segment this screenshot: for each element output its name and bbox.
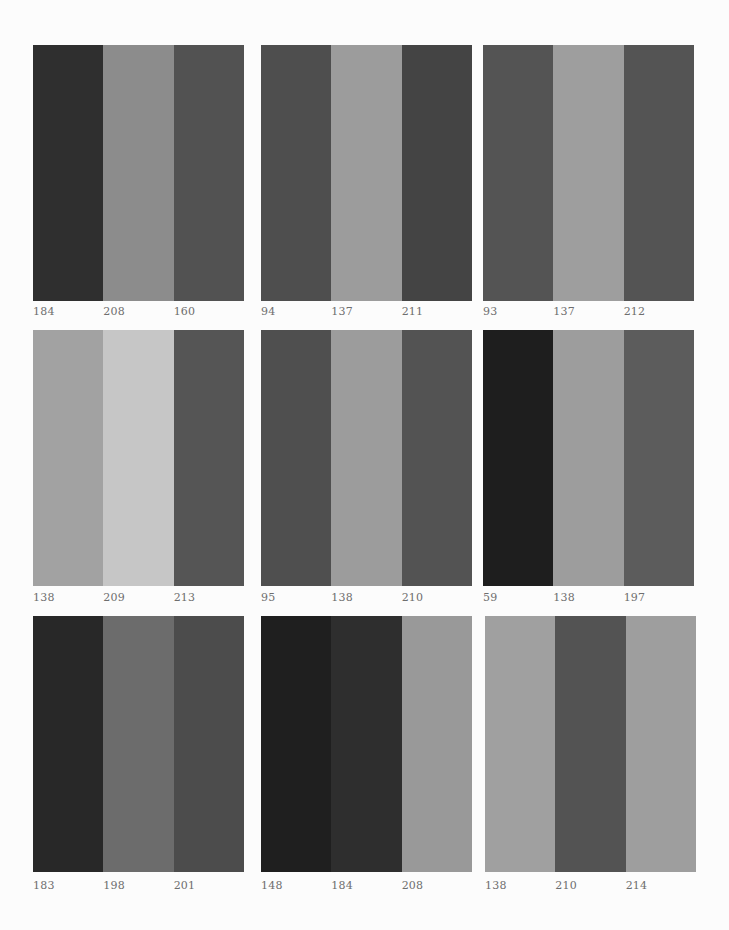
stripe (33, 616, 103, 872)
stripe (553, 330, 623, 586)
swatch-panel-5 (261, 330, 472, 586)
stripe (33, 45, 103, 301)
stripe (555, 616, 625, 872)
stripe-label: 214 (626, 879, 696, 897)
swatch-panel-2 (261, 45, 472, 301)
swatch-labels-1: 184 208 160 (33, 305, 244, 323)
swatch-panel-7 (33, 616, 244, 872)
stripe (103, 45, 173, 301)
stripe-label: 209 (103, 591, 173, 609)
swatch-panel-3 (483, 45, 694, 301)
stripe-label: 198 (103, 879, 173, 897)
stripe-label: 212 (624, 305, 694, 323)
stripe-label: 138 (33, 591, 103, 609)
stripe-label: 210 (402, 591, 472, 609)
swatch-labels-4: 138 209 213 (33, 591, 244, 609)
stripe (174, 616, 244, 872)
stripe (483, 330, 553, 586)
stripe (261, 45, 331, 301)
stripe-label: 184 (33, 305, 103, 323)
stripe (331, 45, 401, 301)
stripe (331, 330, 401, 586)
stripe-label: 184 (331, 879, 401, 897)
stripe-label: 183 (33, 879, 103, 897)
stripe (624, 45, 694, 301)
stripe (402, 616, 472, 872)
stripe (103, 330, 173, 586)
swatch-labels-5: 95 138 210 (261, 591, 472, 609)
stripe-label: 93 (483, 305, 553, 323)
swatch-panel-4 (33, 330, 244, 586)
stripe (485, 616, 555, 872)
stripe-label: 94 (261, 305, 331, 323)
stripe-label: 138 (331, 591, 401, 609)
stripe (174, 330, 244, 586)
stripe-label: 137 (331, 305, 401, 323)
stripe (483, 45, 553, 301)
stripe-label: 148 (261, 879, 331, 897)
stripe-label: 95 (261, 591, 331, 609)
stripe-label: 160 (174, 305, 244, 323)
stripe (261, 330, 331, 586)
stripe-label: 137 (553, 305, 623, 323)
stripe (261, 616, 331, 872)
swatch-panel-8 (261, 616, 472, 872)
swatch-labels-3: 93 137 212 (483, 305, 694, 323)
swatch-grid: 184 208 160 94 137 211 93 137 212 138 20… (0, 0, 729, 930)
stripe (402, 330, 472, 586)
stripe-label: 197 (624, 591, 694, 609)
stripe-label: 201 (174, 879, 244, 897)
stripe-label: 213 (174, 591, 244, 609)
stripe (626, 616, 696, 872)
stripe (33, 330, 103, 586)
swatch-labels-8: 148 184 208 (261, 879, 472, 897)
swatch-labels-2: 94 137 211 (261, 305, 472, 323)
swatch-panel-9 (485, 616, 696, 872)
stripe-label: 59 (483, 591, 553, 609)
stripe (402, 45, 472, 301)
stripe (553, 45, 623, 301)
stripe (174, 45, 244, 301)
stripe-label: 211 (402, 305, 472, 323)
swatch-labels-7: 183 198 201 (33, 879, 244, 897)
stripe (624, 330, 694, 586)
stripe-label: 210 (555, 879, 625, 897)
swatch-panel-6 (483, 330, 694, 586)
stripe-label: 138 (485, 879, 555, 897)
stripe (331, 616, 401, 872)
stripe-label: 138 (553, 591, 623, 609)
swatch-labels-9: 138 210 214 (485, 879, 696, 897)
stripe (103, 616, 173, 872)
swatch-labels-6: 59 138 197 (483, 591, 694, 609)
stripe-label: 208 (103, 305, 173, 323)
swatch-panel-1 (33, 45, 244, 301)
stripe-label: 208 (402, 879, 472, 897)
